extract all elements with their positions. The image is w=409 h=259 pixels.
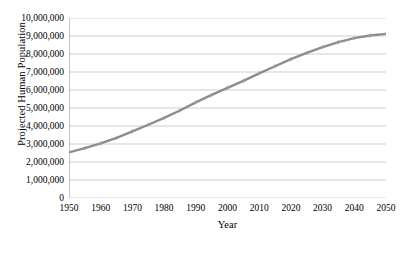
plot-area <box>69 18 386 198</box>
y-tick-label: 4,000,000 <box>0 120 64 132</box>
x-axis-tick-labels: 1950196019701980199020002010202020302040… <box>69 202 386 216</box>
x-tick-label: 2050 <box>366 202 406 215</box>
population-chart: Projected Human Population 10,000,0009,0… <box>0 0 409 259</box>
y-tick-label: 6,000,000 <box>0 84 64 96</box>
gridlines <box>69 18 386 198</box>
y-tick-label: 10,000,000 <box>0 12 64 24</box>
y-tick-label: 9,000,000 <box>0 30 64 42</box>
y-tick-label: 3,000,000 <box>0 138 64 150</box>
y-tick-label: 7,000,000 <box>0 66 64 78</box>
y-tick-label: 2,000,000 <box>0 156 64 168</box>
y-tick-label: 5,000,000 <box>0 102 64 114</box>
y-tick-label: 1,000,000 <box>0 174 64 186</box>
plot-svg <box>69 18 386 198</box>
y-tick-label: 8,000,000 <box>0 48 64 60</box>
x-axis-title: Year <box>69 218 386 232</box>
y-axis-tick-labels: 10,000,0009,000,0008,000,0007,000,0006,0… <box>0 12 64 204</box>
data-point-marker <box>384 32 386 36</box>
population-line-series <box>69 34 386 153</box>
data-point-markers <box>69 32 386 155</box>
